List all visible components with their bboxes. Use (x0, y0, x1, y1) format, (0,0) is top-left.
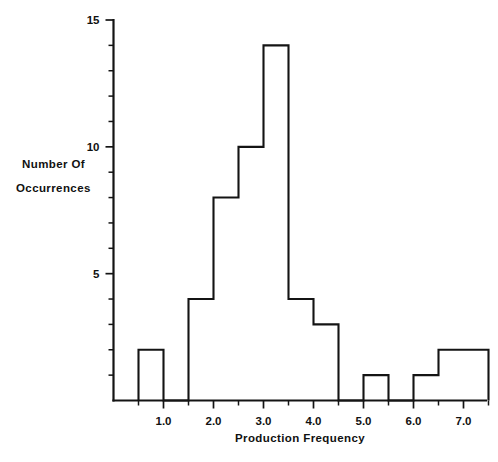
x-tick-label-3.0: 3.0 (256, 415, 272, 427)
x-axis-title: Production Frequency (235, 432, 365, 444)
histogram-figure: 51015 1.02.03.04.05.06.07.0 Number Of Oc… (0, 0, 498, 462)
x-tick-label-7.0: 7.0 (456, 415, 472, 427)
x-tick-label-6.0: 6.0 (406, 415, 422, 427)
y-tick-label-10: 10 (87, 141, 100, 153)
chart-background (0, 0, 498, 462)
x-tick-label-2.0: 2.0 (206, 415, 222, 427)
y-tick-label-15: 15 (87, 14, 100, 26)
x-tick-label-5.0: 5.0 (356, 415, 372, 427)
histogram-chart-svg: 51015 1.02.03.04.05.06.07.0 Number Of Oc… (0, 0, 498, 462)
y-axis-label-line-2: Occurrences (16, 182, 91, 194)
x-tick-label-1.0: 1.0 (156, 415, 172, 427)
y-tick-label-5: 5 (93, 268, 100, 280)
x-tick-label-4.0: 4.0 (306, 415, 322, 427)
y-axis-label-line-1: Number Of (22, 158, 85, 170)
